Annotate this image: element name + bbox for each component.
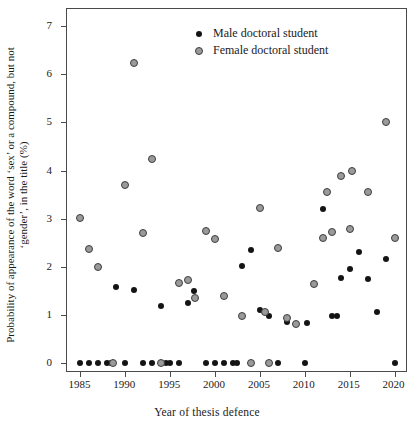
data-point-female	[148, 155, 156, 163]
y-tick	[61, 74, 67, 75]
data-point-female	[157, 359, 165, 367]
data-point-female	[175, 279, 183, 287]
data-point-female	[337, 172, 345, 180]
data-point-female	[94, 263, 102, 271]
data-point-male	[122, 360, 128, 366]
data-point-male	[191, 288, 197, 294]
y-tick	[61, 315, 67, 316]
data-point-female	[130, 59, 138, 67]
legend-item-female: Female doctoral student	[192, 42, 328, 59]
data-point-female	[346, 225, 354, 233]
data-point-male	[140, 360, 146, 366]
data-point-male	[203, 360, 209, 366]
data-point-female	[319, 234, 327, 242]
data-point-female	[348, 167, 356, 175]
x-tick-label: 1990	[113, 378, 135, 390]
data-point-female	[109, 359, 117, 367]
data-point-male	[248, 247, 254, 253]
data-point-female	[184, 276, 192, 284]
x-tick	[215, 371, 216, 377]
x-tick-label: 2005	[248, 378, 270, 390]
data-point-male	[338, 275, 344, 281]
x-tick-label: 2000	[203, 378, 225, 390]
data-point-male	[221, 360, 227, 366]
x-tick	[350, 371, 351, 377]
data-point-male	[113, 284, 119, 290]
female-marker-icon	[192, 47, 206, 55]
data-point-male	[334, 313, 340, 319]
x-tick	[260, 371, 261, 377]
legend: Male doctoral student Female doctoral st…	[192, 25, 328, 59]
data-point-male	[176, 360, 182, 366]
y-tick-label: 5	[47, 116, 53, 127]
data-point-female	[283, 314, 291, 322]
x-tick-label: 1995	[158, 378, 180, 390]
x-tick	[170, 371, 171, 377]
data-point-male	[185, 300, 191, 306]
data-point-female	[382, 118, 390, 126]
data-point-male	[95, 360, 101, 366]
data-point-male	[320, 206, 326, 212]
y-tick-label: 6	[47, 68, 53, 79]
x-tick-label: 2020	[383, 378, 405, 390]
y-tick	[61, 122, 67, 123]
data-point-female	[211, 235, 219, 243]
data-point-female	[328, 228, 336, 236]
x-axis-title: Year of thesis defence	[0, 406, 414, 418]
legend-label-male: Male doctoral student	[213, 25, 318, 42]
data-point-female	[292, 320, 300, 328]
y-tick-label: 0	[47, 357, 53, 368]
data-point-male	[77, 360, 83, 366]
data-point-female	[76, 214, 84, 222]
data-point-female	[220, 292, 228, 300]
data-point-male	[212, 360, 218, 366]
legend-label-female: Female doctoral student	[213, 42, 328, 59]
data-point-female	[391, 234, 399, 242]
data-point-male	[365, 276, 371, 282]
y-axis-title: Probability of appearance of the word ‘s…	[4, 30, 30, 360]
plot-frame: Male doctoral student Female doctoral st…	[66, 8, 407, 372]
plot-area	[67, 9, 406, 371]
y-tick	[61, 363, 67, 364]
data-point-male	[131, 287, 137, 293]
y-tick-label: 2	[47, 260, 53, 271]
legend-item-male: Male doctoral student	[192, 25, 328, 42]
data-point-female	[265, 359, 273, 367]
data-point-male	[356, 249, 362, 255]
data-point-female	[121, 181, 129, 189]
data-point-male	[392, 360, 398, 366]
x-tick	[80, 371, 81, 377]
y-tick	[61, 26, 67, 27]
data-point-male	[239, 263, 245, 269]
data-point-female	[364, 188, 372, 196]
data-point-female	[310, 280, 318, 288]
y-tick	[61, 219, 67, 220]
x-tick-label: 2010	[293, 378, 315, 390]
x-tick	[125, 371, 126, 377]
data-point-female	[323, 188, 331, 196]
y-tick-label: 1	[47, 309, 53, 320]
y-tick	[61, 267, 67, 268]
male-marker-icon	[192, 31, 206, 37]
y-tick	[61, 171, 67, 172]
data-point-male	[383, 256, 389, 262]
data-point-female	[247, 359, 255, 367]
data-point-male	[302, 360, 308, 366]
x-tick-label: 2015	[338, 378, 360, 390]
data-point-male	[149, 360, 155, 366]
x-tick	[395, 371, 396, 377]
y-tick-label: 4	[47, 164, 53, 175]
data-point-female	[85, 245, 93, 253]
data-point-female	[191, 294, 199, 302]
figure: 01234567 Probability of appearance of th…	[0, 0, 414, 432]
data-point-female	[139, 229, 147, 237]
x-axis-tick-labels: 19851990199520002005201020152020	[0, 378, 414, 394]
data-point-male	[158, 303, 164, 309]
data-point-female	[274, 244, 282, 252]
data-point-male	[275, 360, 281, 366]
data-point-male	[374, 309, 380, 315]
x-tick-label: 1985	[68, 378, 90, 390]
y-tick-label: 7	[47, 19, 53, 30]
data-point-male	[167, 360, 173, 366]
data-point-female	[238, 312, 246, 320]
